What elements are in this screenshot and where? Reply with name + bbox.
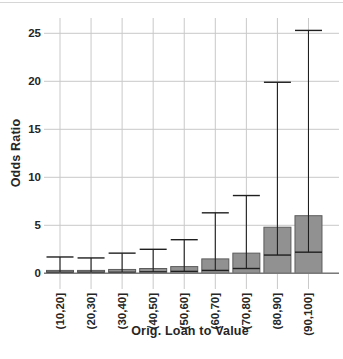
x-tick-label: (80,90] <box>271 293 283 330</box>
y-tick-label: 15 <box>28 123 41 135</box>
x-tick-label: (30,40] <box>116 293 128 330</box>
y-axis-title: Odds Ratio <box>9 119 23 188</box>
plot-area: 0510152025(10,20](20,30](30,40](40,50](5… <box>0 0 343 359</box>
x-tick-label: (10,20] <box>54 293 66 330</box>
odds-ratio-chart: Odds Ratio 0510152025(10,20](20,30](30,4… <box>0 0 343 359</box>
y-tick-label: 0 <box>35 267 41 279</box>
x-tick-label: (90,100] <box>302 293 314 336</box>
y-tick-label: 5 <box>35 219 42 231</box>
figure-top-border <box>0 2 343 3</box>
y-tick-label: 10 <box>28 171 41 183</box>
x-axis-title: Orig. Loan to Value <box>131 324 249 338</box>
x-tick-label: (20,30] <box>85 293 97 330</box>
y-tick-label: 20 <box>28 75 41 87</box>
y-tick-label: 25 <box>28 27 41 39</box>
